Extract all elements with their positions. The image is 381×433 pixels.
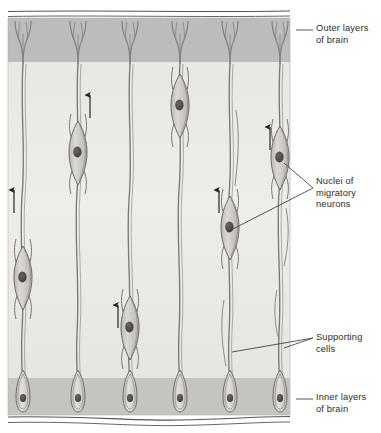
middle-zone xyxy=(8,62,290,378)
outer-layers-band xyxy=(8,18,290,62)
tissue-slab xyxy=(8,18,290,415)
label-nuclei-migratory-neurons: Nuclei of migratory neurons xyxy=(316,176,356,211)
diagram-canvas xyxy=(0,0,381,433)
label-inner-layers: Inner layers of brain xyxy=(316,392,366,415)
inner-layers-band xyxy=(8,378,290,415)
label-outer-layers: Outer layers of brain xyxy=(316,23,368,46)
label-supporting-cells: Supporting cells xyxy=(316,332,362,355)
